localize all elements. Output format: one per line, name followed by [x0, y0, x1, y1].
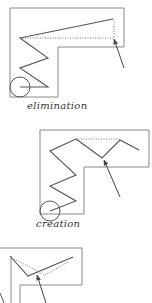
- creation-outline: [40, 130, 149, 214]
- elimination-outline: [10, 8, 124, 97]
- third-edge-line: [0, 293, 4, 303]
- third-dotted-path: [14, 259, 68, 275]
- third-arrow: [37, 275, 46, 303]
- elimination-arrow: [114, 39, 124, 68]
- third-diagram: [0, 248, 82, 303]
- elimination-path: [20, 19, 113, 87]
- creation-path: [50, 139, 76, 211]
- third-outline: [0, 248, 82, 303]
- creation-arrow: [104, 160, 120, 197]
- elimination-diagram: [10, 8, 124, 97]
- creation-diagram: [40, 130, 149, 221]
- elimination-caption: elimination: [27, 100, 87, 111]
- creation-caption: creation: [36, 218, 80, 229]
- creation-path-branch: [76, 139, 139, 158]
- diagram-canvas: [0, 0, 152, 303]
